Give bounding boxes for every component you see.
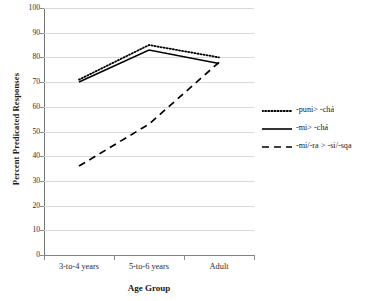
x-axis-title: Age Group [44, 283, 254, 293]
series-layer [44, 8, 254, 256]
legend-label: -mi> -chá [296, 123, 328, 132]
x-tick-mark [44, 255, 45, 260]
line-chart-figure: Percent Predicated Responses Age Group -… [0, 0, 376, 301]
chart-legend: -puni> -chá-mi> -chá-mi/-ra > -si/-sqa [262, 100, 376, 154]
legend-item[interactable]: -mi> -chá [262, 118, 376, 136]
y-tick-label: 30 [12, 177, 40, 185]
y-tick-mark [40, 181, 44, 182]
y-tick-mark [40, 33, 44, 34]
y-tick-label: 10 [12, 226, 40, 234]
x-tick-mark [184, 255, 185, 260]
y-tick-label: 40 [12, 152, 40, 160]
x-tick-label: 5-to-6 years [113, 262, 185, 271]
x-tick-label: Adult [183, 262, 255, 271]
y-tick-mark [40, 206, 44, 207]
y-tick-label: 70 [12, 78, 40, 86]
y-tick-mark [40, 82, 44, 83]
series-line [79, 50, 219, 82]
legend-label: -mi/-ra > -si/-sqa [296, 141, 352, 150]
legend-item[interactable]: -mi/-ra > -si/-sqa [262, 136, 376, 154]
legend-swatch-dashed [262, 139, 292, 151]
y-tick-label: 80 [12, 53, 40, 61]
legend-swatch-dotted [262, 103, 292, 115]
y-tick-mark [40, 8, 44, 9]
legend-label: -puni> -chá [296, 105, 334, 114]
x-tick-mark [114, 255, 115, 260]
y-tick-label: 60 [12, 103, 40, 111]
x-tick-mark [254, 255, 255, 260]
series-line [79, 62, 219, 166]
y-tick-mark [40, 57, 44, 58]
y-tick-mark [40, 132, 44, 133]
y-tick-label: 20 [12, 202, 40, 210]
y-tick-label: 50 [12, 128, 40, 136]
legend-item[interactable]: -puni> -chá [262, 100, 376, 118]
x-tick-label: 3-to-4 years [43, 262, 115, 271]
y-tick-mark [40, 156, 44, 157]
y-tick-label: 100 [12, 4, 40, 12]
legend-swatch-solid [262, 121, 292, 133]
y-tick-label: 90 [12, 29, 40, 37]
y-tick-mark [40, 107, 44, 108]
y-tick-mark [40, 230, 44, 231]
y-tick-label: 0 [12, 251, 40, 259]
